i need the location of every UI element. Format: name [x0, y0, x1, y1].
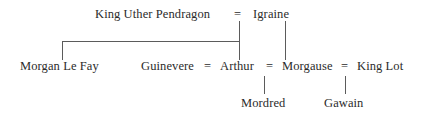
- union-symbol-uther-igraine: =: [234, 7, 241, 21]
- node-arthur: Arthur: [220, 59, 254, 73]
- node-mordred: Mordred: [241, 96, 285, 110]
- connector-sibling-bracket: [62, 41, 240, 42]
- connector-drop-mordred: [264, 76, 265, 94]
- family-tree-diagram: King Uther Pendragon = Igraine Morgan Le…: [0, 0, 426, 119]
- connector-drop-arthur: [239, 41, 240, 60]
- union-symbol-morgause-kinglot: =: [341, 59, 348, 73]
- node-king-uther-pendragon: King Uther Pendragon: [95, 7, 210, 21]
- node-guinevere: Guinevere: [141, 59, 194, 73]
- connector-igraine-to-morgause: [285, 21, 286, 60]
- union-symbol-guinevere-arthur: =: [204, 59, 211, 73]
- node-morgause: Morgause: [282, 59, 333, 73]
- union-symbol-arthur-morgause: =: [266, 59, 273, 73]
- connector-drop-morgan-le-fay: [62, 41, 63, 60]
- node-king-lot: King Lot: [357, 59, 403, 73]
- connector-uther-union-descent: [239, 21, 240, 42]
- node-gawain: Gawain: [324, 96, 363, 110]
- connector-drop-gawain: [345, 76, 346, 94]
- node-morgan-le-fay: Morgan Le Fay: [20, 59, 99, 73]
- node-igraine: Igraine: [253, 7, 289, 21]
